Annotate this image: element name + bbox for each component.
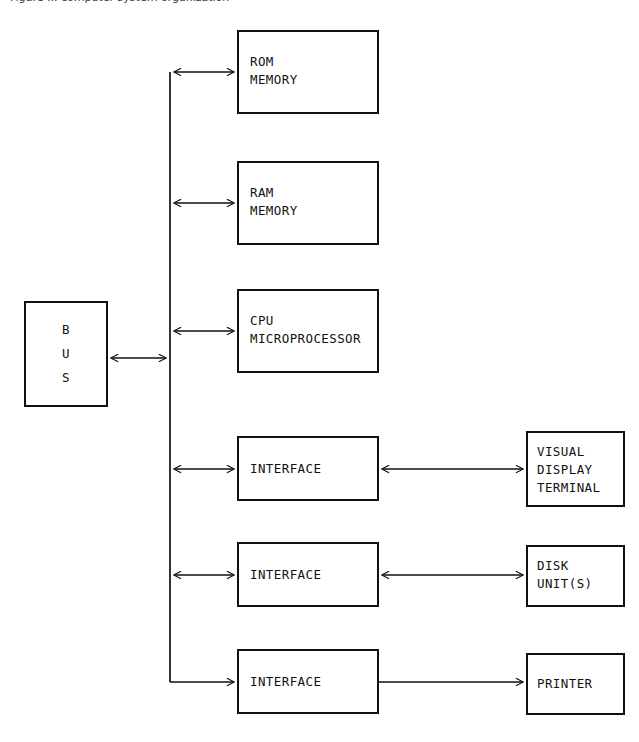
interface-2-label: INTERFACE [250, 567, 321, 582]
rom-label-line-2: MEMORY [250, 72, 298, 87]
node-interface-3[interactable]: INTERFACE [238, 650, 378, 713]
cpu-label-line-1: CPU [250, 313, 274, 328]
node-disk-units[interactable]: DISK UNIT(S) [527, 546, 624, 606]
disk-label-line-1: DISK [537, 558, 569, 573]
interface-1-label: INTERFACE [250, 461, 321, 476]
vdt-label-line-1: VISUAL [537, 444, 585, 459]
ram-label-line-2: MEMORY [250, 203, 298, 218]
node-bus[interactable]: B U S [25, 302, 107, 406]
block-diagram-canvas: Figure ... computer system organization … [0, 0, 639, 742]
diagram-svg: B U S ROM MEMORY RAM MEMORY CPU MICROPRO… [0, 0, 639, 742]
node-interface-1[interactable]: INTERFACE [238, 437, 378, 500]
bus-label-line-3: S [62, 370, 70, 385]
node-ram[interactable]: RAM MEMORY [238, 162, 378, 244]
printer-label: PRINTER [537, 676, 593, 691]
cropped-caption-text: Figure ... computer system organization [10, 0, 229, 4]
vdt-label-line-2: DISPLAY [537, 462, 593, 477]
bus-label-line-2: U [62, 346, 70, 361]
node-cpu[interactable]: CPU MICROPROCESSOR [238, 290, 378, 372]
ram-label-line-1: RAM [250, 185, 274, 200]
rom-label-line-1: ROM [250, 54, 274, 69]
vdt-label-line-3: TERMINAL [537, 480, 600, 495]
cropped-caption: Figure ... computer system organization [0, 0, 639, 9]
node-interface-2[interactable]: INTERFACE [238, 543, 378, 606]
disk-label-line-2: UNIT(S) [537, 576, 592, 591]
cpu-label-line-2: MICROPROCESSOR [250, 331, 361, 346]
bus-label-line-1: B [62, 322, 70, 337]
interface-3-label: INTERFACE [250, 674, 321, 689]
node-visual-display-terminal[interactable]: VISUAL DISPLAY TERMINAL [527, 432, 624, 506]
node-rom[interactable]: ROM MEMORY [238, 31, 378, 113]
node-printer[interactable]: PRINTER [527, 654, 624, 714]
